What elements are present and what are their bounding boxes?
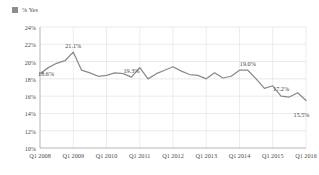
data-point-label: 17.2%: [273, 85, 289, 92]
data-point-label: 19.0%: [240, 60, 256, 67]
y-axis-tick-label: 14%: [25, 110, 36, 117]
data-point-label: 19.3%: [123, 67, 139, 74]
y-axis-tick-label: 10%: [25, 145, 36, 152]
x-axis-tick-label: Q1 2008: [29, 152, 50, 159]
x-axis-tick-label: Q1 2016: [295, 152, 316, 159]
data-point-label: 15.5%: [294, 111, 310, 118]
data-point-label: 21.1%: [65, 42, 81, 49]
x-axis-tick-label: Q1 2010: [96, 152, 117, 159]
y-axis-tick-label: 16%: [25, 93, 36, 100]
line-chart: % Yes 24%22%20%18%16%14%12%10% 18.6%21.1…: [0, 0, 319, 175]
legend-swatch-percent-yes: [12, 7, 18, 13]
x-axis-tick-label: Q1 2011: [129, 152, 150, 159]
chart-legend: % Yes: [12, 6, 38, 13]
x-axis-tick-label: Q1 2009: [63, 152, 84, 159]
data-point-label: 18.6%: [38, 70, 54, 77]
plot-area: 18.6%21.1%19.3%19.0%17.2%15.5%: [40, 27, 306, 148]
legend-label-percent-yes: % Yes: [22, 6, 38, 13]
vertical-gridlines: [73, 27, 306, 148]
x-axis-tick-label: Q1 2012: [162, 152, 183, 159]
y-axis-tick-label: 20%: [25, 58, 36, 65]
y-axis-tick-label: 12%: [25, 127, 36, 134]
x-axis: Q1 2008Q1 2009Q1 2010Q1 2011Q1 2012Q1 20…: [40, 152, 306, 170]
y-axis-tick-label: 18%: [25, 75, 36, 82]
y-axis: 24%22%20%18%16%14%12%10%: [0, 27, 36, 148]
x-axis-tick-label: Q1 2014: [229, 152, 250, 159]
y-axis-tick-label: 24%: [25, 24, 36, 31]
x-axis-tick-label: Q1 2013: [196, 152, 217, 159]
x-axis-tick-label: Q1 2015: [262, 152, 283, 159]
y-axis-tick-label: 22%: [25, 41, 36, 48]
